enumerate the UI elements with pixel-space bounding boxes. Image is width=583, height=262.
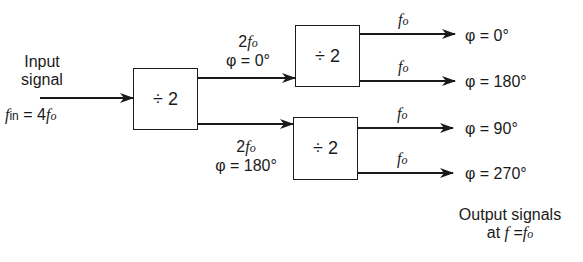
input-label: Input signal xyxy=(12,53,72,89)
divider-block-1: ÷ 2 xyxy=(133,68,198,130)
output-phase-270: φ = 270° xyxy=(465,165,527,183)
output-phase-180: φ = 180° xyxy=(465,73,527,91)
output-freq-label-1: fo xyxy=(398,11,408,30)
output-phase-90: φ = 90° xyxy=(465,120,518,138)
divider-block-3: ÷ 2 xyxy=(293,117,358,180)
output-freq-label-3: fo xyxy=(397,105,407,124)
output-phase-0: φ = 0° xyxy=(465,27,509,45)
output-freq-label-4: fo xyxy=(397,150,407,169)
intermediate-label-0deg: 2fo φ = 0° xyxy=(208,33,288,70)
input-frequency: fin = 4fo xyxy=(5,106,56,125)
output-freq-label-2: fo xyxy=(398,58,408,77)
output-caption: Output signals at f =fo xyxy=(440,206,580,243)
divider-block-2: ÷ 2 xyxy=(295,25,360,87)
intermediate-label-180deg: 2fo φ = 180° xyxy=(196,138,296,175)
